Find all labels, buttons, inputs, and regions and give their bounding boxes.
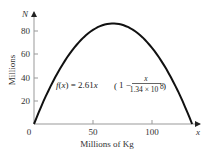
x-ticks	[93, 120, 152, 124]
svg-text:40: 40	[21, 73, 31, 83]
y-tick-labels: 20 40 60 80	[21, 26, 31, 106]
svg-text:50: 50	[89, 127, 99, 137]
data-curve	[34, 24, 192, 125]
svg-text:): )	[163, 81, 166, 91]
svg-text:100: 100	[145, 127, 159, 137]
svg-text:0: 0	[27, 127, 32, 137]
y-axis-title: Millions	[7, 54, 17, 85]
svg-text:f(x) = 2.61x: f(x) = 2.61x	[56, 80, 98, 90]
svg-text:1.34 × 10: 1.34 × 10	[130, 85, 159, 94]
svg-text:20: 20	[21, 96, 31, 106]
x-tick-labels: 0 50 100	[27, 127, 160, 137]
svg-text:80: 80	[21, 26, 31, 36]
x-axis-title: Millions of Kg	[80, 139, 134, 149]
y-ticks	[34, 31, 38, 101]
chart: 20 40 60 80 0 50 100 N x Millions of Kg …	[0, 0, 209, 153]
svg-text:(: (	[114, 81, 117, 91]
x-axis-variable: x	[195, 127, 200, 137]
svg-text:60: 60	[21, 49, 31, 59]
y-axis-variable: N	[21, 9, 29, 19]
svg-text:x: x	[143, 74, 148, 83]
formula-annotation: f(x) = 2.61x ( 1 − x 1.34 × 10 8 )	[56, 74, 166, 94]
